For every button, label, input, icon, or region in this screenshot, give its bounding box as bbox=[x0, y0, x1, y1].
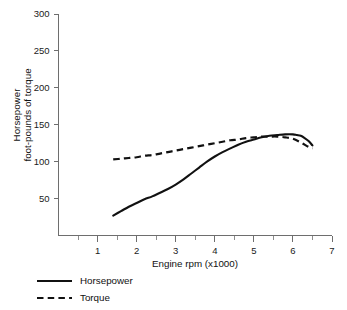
x-tick-label: 1 bbox=[95, 245, 100, 256]
plot-series bbox=[113, 134, 312, 215]
series-line-torque bbox=[113, 137, 312, 160]
y-axis-ticks bbox=[54, 14, 59, 199]
y-tick-label: 100 bbox=[34, 156, 50, 167]
x-tick-label: 4 bbox=[212, 245, 217, 256]
x-tick-label: 3 bbox=[173, 245, 178, 256]
x-axis-title: Engine rpm (x1000) bbox=[152, 258, 238, 269]
chart-figure: 50100150200250300 1234567 Engine rpm (x1… bbox=[0, 0, 347, 310]
x-axis-major-ticks bbox=[98, 236, 332, 242]
x-tick-label: 7 bbox=[329, 245, 334, 256]
x-tick-label: 5 bbox=[251, 245, 256, 256]
chart-legend: Horsepower Torque bbox=[37, 275, 134, 303]
x-axis-minor-ticks bbox=[78, 236, 312, 240]
y-tick-label: 150 bbox=[34, 119, 50, 130]
y-tick-label: 300 bbox=[34, 8, 50, 19]
y-axis-title: Horsepower foot-pounds of torque bbox=[11, 68, 33, 162]
legend-label-torque: Torque bbox=[80, 292, 111, 303]
x-tick-label: 6 bbox=[290, 245, 295, 256]
y-axis: 50100150200250300 bbox=[34, 8, 59, 236]
y-tick-label: 50 bbox=[39, 193, 50, 204]
y-axis-title-line1: Horsepower bbox=[11, 88, 22, 142]
y-axis-title-line2: foot-pounds of torque bbox=[22, 68, 33, 162]
y-axis-tick-labels: 50100150200250300 bbox=[34, 8, 50, 204]
y-tick-label: 200 bbox=[34, 82, 50, 93]
series-line-horsepower bbox=[113, 134, 312, 215]
y-tick-label: 250 bbox=[34, 45, 50, 56]
engine-performance-chart: 50100150200250300 1234567 Engine rpm (x1… bbox=[0, 0, 347, 310]
x-axis-tick-labels: 1234567 bbox=[95, 245, 335, 256]
x-tick-label: 2 bbox=[134, 245, 139, 256]
x-axis: 1234567 bbox=[59, 236, 335, 256]
legend-label-horsepower: Horsepower bbox=[80, 275, 134, 286]
